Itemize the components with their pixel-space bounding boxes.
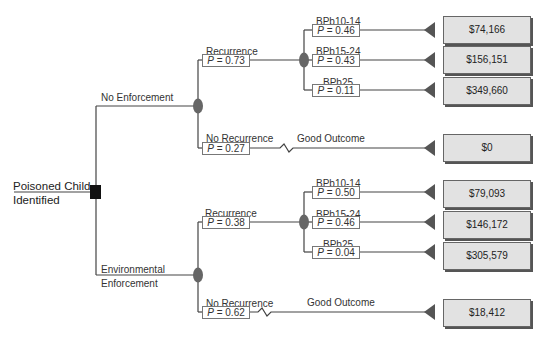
payoff-box: $18,412 <box>443 299 531 327</box>
payoff-box: $79,093 <box>443 180 531 208</box>
payoff-box: $156,151 <box>443 46 531 74</box>
payoff-box: $305,579 <box>443 242 531 270</box>
root-label: Poisoned Child <box>13 179 90 193</box>
chance-node <box>193 99 203 114</box>
root-label-2: Identified <box>13 193 60 207</box>
probability-box: P = 0.50 <box>312 186 360 199</box>
strategy-environmental-label-2: Enforcement <box>101 278 158 290</box>
probability-box: P = 0.04 <box>312 246 360 259</box>
root-label-line1: Poisoned Child <box>13 180 90 192</box>
probability-box: P = 0.11 <box>312 84 360 97</box>
probability-box: P = 0.46 <box>312 216 360 229</box>
payoff-box: $74,166 <box>443 16 531 44</box>
payoff-box: $0 <box>443 134 531 162</box>
good-outcome-label: Good Outcome <box>307 297 375 309</box>
probability-box: P = 0.27 <box>202 142 250 155</box>
probability-box: P = 0.38 <box>202 216 250 229</box>
chance-node <box>193 268 203 283</box>
chance-node <box>299 215 309 230</box>
strategy-environmental-label-1: Environmental <box>101 264 165 276</box>
payoff-box: $146,172 <box>443 211 531 239</box>
probability-box: P = 0.73 <box>202 54 250 67</box>
payoff-box: $349,660 <box>443 77 531 105</box>
decision-node <box>90 185 101 199</box>
strategy-no-enforcement-label: No Enforcement <box>101 92 173 104</box>
good-outcome-label: Good Outcome <box>297 133 365 145</box>
probability-box: P = 0.43 <box>312 54 360 67</box>
root-label-line2: Identified <box>13 194 60 206</box>
probability-box: P = 0.62 <box>202 306 250 319</box>
probability-box: P = 0.46 <box>312 24 360 37</box>
chance-node <box>299 53 309 68</box>
